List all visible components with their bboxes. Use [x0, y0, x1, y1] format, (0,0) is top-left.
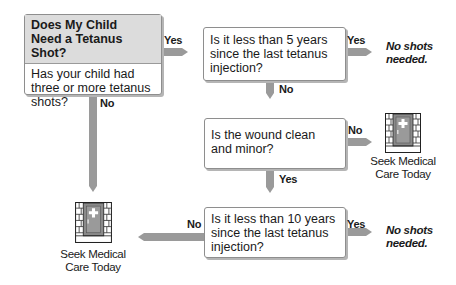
- five-years-node: Is it less than 5 years since the last t…: [203, 27, 346, 81]
- label-start-yes: Yes: [164, 34, 182, 46]
- question-line-2: since the last tetanus: [210, 47, 339, 61]
- question-line-2: since the last tetanus: [211, 226, 339, 240]
- header-line-2: Need a Tetanus Shot?: [31, 32, 155, 60]
- outcome-line-1: Seek Medical: [365, 155, 441, 168]
- label-five-yes: Yes: [347, 34, 365, 46]
- arrow-ten-no: [138, 233, 204, 241]
- question-line-2: and minor?: [211, 142, 339, 156]
- arrow-wound-no: [346, 138, 372, 146]
- outcome-no-shots-2: No shots needed.: [386, 224, 433, 250]
- outcome-line-1: No shots: [386, 224, 433, 237]
- start-node: Does My Child Need a Tetanus Shot? Has y…: [24, 14, 162, 95]
- outcome-line-2: Care Today: [365, 168, 441, 181]
- label-wound-yes: Yes: [279, 173, 297, 185]
- outcome-line-2: needed.: [386, 237, 433, 250]
- outcome-line-1: No shots: [386, 40, 433, 53]
- start-node-question: Has your child had three or more tetanus…: [25, 64, 161, 114]
- question-line-3: injection?: [210, 61, 339, 75]
- question-line-3: injection?: [211, 240, 339, 254]
- arrow-five-yes: [346, 48, 372, 56]
- question-line-2: three or more tetanus: [31, 81, 155, 95]
- question-line-3: shots?: [31, 95, 155, 109]
- outcome-line-1: Seek Medical: [55, 248, 131, 261]
- outcome-no-shots-1: No shots needed.: [386, 40, 433, 66]
- question-line-1: Is it less than 10 years: [211, 212, 339, 226]
- arrow-five-no: [266, 81, 274, 99]
- wound-node: Is the wound clean and minor?: [204, 118, 346, 169]
- outcome-line-2: needed.: [386, 53, 433, 66]
- label-ten-yes: Yes: [347, 218, 365, 230]
- arrow-wound-yes: [266, 169, 274, 193]
- question-line-1: Has your child had: [31, 67, 155, 81]
- outcome-line-2: Care Today: [55, 261, 131, 274]
- label-start-no: No: [100, 97, 114, 109]
- label-ten-no: No: [187, 218, 201, 230]
- label-wound-no: No: [348, 124, 362, 136]
- question-line-1: Is the wound clean: [211, 128, 339, 142]
- label-five-no: No: [279, 83, 293, 95]
- arrow-start-yes: [161, 48, 188, 56]
- outcome-seek-care-1: Seek Medical Care Today: [365, 155, 441, 181]
- outcome-seek-care-2: Seek Medical Care Today: [55, 248, 131, 274]
- clinic-door-icon: [385, 113, 421, 153]
- start-node-header: Does My Child Need a Tetanus Shot?: [25, 15, 161, 64]
- ten-years-node: Is it less than 10 years since the last …: [204, 207, 346, 258]
- question-line-1: Is it less than 5 years: [210, 33, 339, 47]
- header-line-1: Does My Child: [31, 18, 155, 32]
- clinic-door-icon: [74, 202, 113, 243]
